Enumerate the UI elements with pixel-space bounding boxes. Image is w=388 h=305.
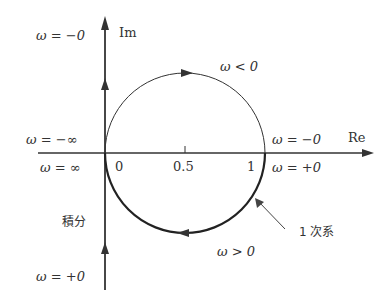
nyquist-diagram: Im Re 0 0.5 1 ω = −0 ω = −∞ ω = ∞ ω = −0… (0, 0, 388, 305)
first-order-pointer (258, 201, 285, 229)
label-omega-minus-zero-right: ω = −0 (272, 133, 321, 146)
tick-label-0: 0 (115, 160, 123, 173)
circle-upper-half (105, 73, 265, 153)
tick-label-1: 1 (247, 160, 255, 173)
real-axis-arrow-icon (362, 149, 374, 157)
label-first-order-system: 1 次系 (299, 226, 334, 238)
label-omega-inf: ω = ∞ (40, 161, 81, 174)
label-omega-plus-zero-right: ω = +0 (272, 161, 321, 174)
label-omega-gt-zero: ω > 0 (217, 245, 255, 258)
imag-axis-arrow-icon (101, 16, 109, 30)
real-axis-label: Re (348, 131, 365, 144)
tick-label-0-5: 0.5 (173, 160, 194, 173)
plot-canvas (0, 0, 388, 305)
label-omega-minus-zero-top: ω = −0 (36, 29, 85, 42)
label-omega-minus-inf: ω = −∞ (26, 133, 77, 146)
label-integrator: 積分 (62, 216, 86, 228)
circle-upper-arrow-icon (181, 69, 193, 77)
integrator-arrow-lower-icon (101, 242, 109, 254)
label-omega-lt-zero: ω < 0 (220, 60, 258, 73)
label-omega-plus-zero-bottom: ω = +0 (36, 270, 85, 283)
circle-lower-arrow-icon (177, 229, 189, 237)
integrator-arrow-upper-icon (101, 78, 109, 90)
imag-axis-label: Im (119, 26, 136, 39)
